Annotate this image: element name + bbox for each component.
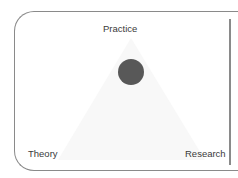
position-marker-dot[interactable] <box>118 59 144 85</box>
card-frame <box>14 11 238 171</box>
right-divider-line <box>229 19 231 165</box>
vertex-label-research: Research <box>185 148 226 159</box>
vertex-label-practice: Practice <box>103 23 137 34</box>
diagram-canvas: Practice Theory Research <box>0 0 238 178</box>
vertex-label-theory: Theory <box>28 148 58 159</box>
